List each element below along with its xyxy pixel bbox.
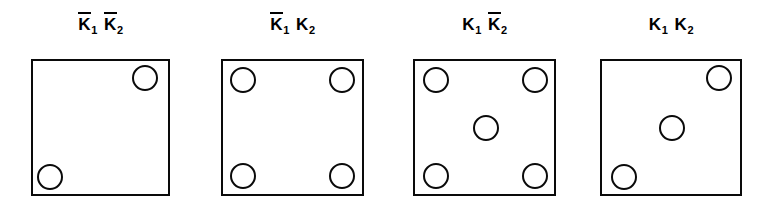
site-circle-bottom-right	[329, 163, 355, 189]
k-symbol: K1	[649, 14, 668, 37]
k-subscript: 2	[117, 24, 123, 36]
site-circle-center	[473, 115, 499, 141]
panel-label: K1K2	[413, 14, 556, 37]
k-letter: K	[462, 15, 474, 34]
k-symbol-barred: K2	[104, 14, 123, 37]
site-circle-top-right	[706, 65, 732, 91]
site-circle-bottom-left	[37, 164, 63, 190]
panel-label: K1K2	[31, 14, 170, 37]
k-symbol-barred: K1	[270, 14, 289, 37]
panel-label: K1K2	[221, 14, 364, 37]
k-subscript: 1	[662, 24, 668, 36]
k-letter: K	[675, 15, 687, 34]
k-subscript: 1	[91, 24, 97, 36]
k-letter: K	[270, 15, 282, 34]
k-subscript: 1	[475, 24, 481, 36]
site-circle-bottom-left	[611, 164, 637, 190]
k-symbol-barred: K1	[78, 14, 97, 37]
k-symbol: K1	[462, 14, 481, 37]
k-letter: K	[78, 15, 90, 34]
kinase-occupancy-figure: K1K2K1K2K1K2K1K2	[0, 0, 773, 213]
site-circle-bottom-right	[522, 163, 548, 189]
k-letter: K	[649, 15, 661, 34]
k-symbol: K2	[675, 14, 694, 37]
site-circle-top-right	[329, 67, 355, 93]
k-subscript: 2	[309, 24, 315, 36]
k-subscript: 2	[501, 24, 507, 36]
site-circle-top-right	[522, 67, 548, 93]
k-letter: K	[488, 15, 500, 34]
site-circle-bottom-left	[230, 163, 256, 189]
site-circle-top-left	[423, 67, 449, 93]
site-circle-center	[659, 115, 685, 141]
k-subscript: 1	[283, 24, 289, 36]
site-circle-bottom-left	[423, 163, 449, 189]
k-symbol: K2	[296, 14, 315, 37]
k-letter: K	[296, 15, 308, 34]
site-circle-top-right	[132, 65, 158, 91]
site-circle-top-left	[230, 67, 256, 93]
k-letter: K	[104, 15, 116, 34]
k-symbol-barred: K2	[488, 14, 507, 37]
panel-label: K1K2	[600, 14, 742, 37]
k-subscript: 2	[687, 24, 693, 36]
